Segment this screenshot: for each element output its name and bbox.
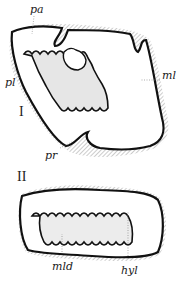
numeral-figure-1: I — [19, 105, 24, 119]
label-pl: pl — [5, 77, 16, 88]
label-hyl: hyl — [121, 265, 138, 276]
figure-1-drawing — [10, 24, 169, 157]
illustration — [0, 0, 188, 281]
label-pa: pa — [30, 4, 44, 15]
label-ml: ml — [162, 70, 176, 81]
label-pr: pr — [45, 150, 57, 161]
label-mld: mld — [52, 261, 73, 272]
figure-2-drawing — [19, 185, 166, 261]
numeral-figure-2: II — [17, 170, 26, 184]
